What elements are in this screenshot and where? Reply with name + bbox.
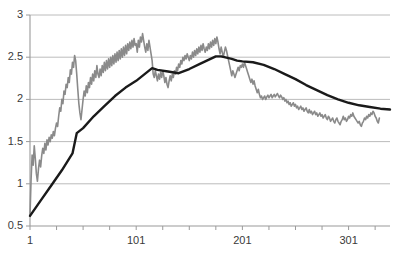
- chart-plot-svg: [0, 0, 400, 257]
- y-axis-tick-label: 1: [0, 178, 23, 189]
- x-axis-tick-label: 1: [5, 235, 55, 246]
- data-series: [30, 34, 390, 216]
- x-axis-tick-label: 201: [217, 235, 267, 246]
- chart-container: 0.511.522.53 1101201301: [0, 0, 400, 257]
- y-axis-tick-label: 0.5: [0, 220, 23, 231]
- y-axis-tick-label: 2.5: [0, 51, 23, 62]
- y-axis-tick-label: 1.5: [0, 136, 23, 147]
- y-axis-tick-label: 2: [0, 93, 23, 104]
- y-axis-tick-label: 3: [0, 9, 23, 20]
- x-axis-tick-label: 101: [111, 235, 161, 246]
- series-line-smooth: [30, 56, 390, 216]
- x-axis-tick-label: 301: [324, 235, 374, 246]
